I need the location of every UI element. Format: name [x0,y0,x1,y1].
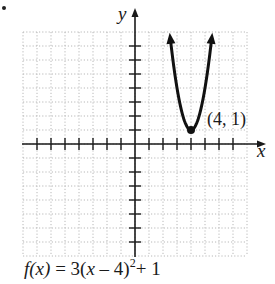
vertex-label: (4, 1) [207,110,246,128]
axes [22,8,266,257]
function-name: f(x) [24,258,50,279]
equation-part: + 1 [136,258,161,279]
x-axis-label: x [257,141,265,160]
y-axis-label: y [118,4,126,23]
equation-part: – 4) [95,258,130,279]
equation-part: = 3( [50,258,86,279]
function-equation: f(x) = 3(x – 4)2+ 1 [24,257,161,278]
coordinate-plane [0,0,275,284]
vertex-point [187,126,195,134]
equation-variable: x [86,258,94,279]
